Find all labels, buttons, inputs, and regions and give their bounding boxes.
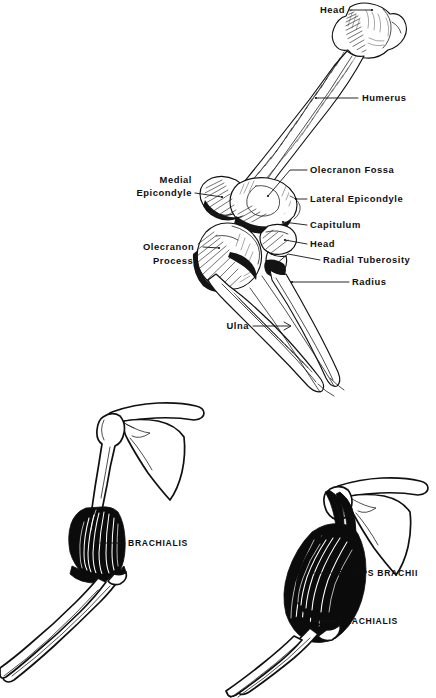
anatomy-illustration-svg: Head Humerus Medial Epicondyle Olecranon… [0,0,436,698]
anatomy-plate: Head Humerus Medial Epicondyle Olecranon… [0,0,436,698]
label-olecranon-process-line2: Process [153,255,193,266]
label-capitulum-text: Capitulum [310,219,361,230]
label-olecranon-fossa-text: Olecranon Fossa [310,164,395,175]
scapula-bone-left-figure [120,420,185,501]
label-radial-tuberosity-text: Radial Tuberosity [323,254,411,265]
forearm-bones-right-figure [226,624,340,698]
label-head-humerus-text: Head [320,4,345,15]
label-medial-epicondyle-line2: Epicondyle [136,187,192,198]
forearm-bones-left-figure [0,572,126,682]
label-radius: Radius [291,276,387,287]
label-humerus-text: Humerus [362,92,407,103]
label-brachialis-right-text: BRACHIALIS [338,616,398,626]
label-brachialis-left-text: BRACHIALIS [128,538,188,548]
label-lateral-epicondyle: Lateral Epicondyle [295,193,403,204]
label-radial-tuberosity: Radial Tuberosity [275,254,411,265]
brachialis-muscle-left-figure [69,507,126,583]
lower-right-biceps-panel: BICEPS BRACHII BRACHIALIS [226,478,428,698]
humerus-bone-left-figure [92,414,125,510]
label-lateral-epicondyle-text: Lateral Epicondyle [310,193,403,204]
lower-left-brachialis-panel: BRACHIALIS [0,403,204,682]
upper-skeleton-panel: Head Humerus Medial Epicondyle Olecranon… [136,3,410,396]
label-ulna-text: Ulna [226,320,249,331]
label-medial-epicondyle-line1: Medial [160,174,192,185]
olecranon-process-bone [193,223,262,292]
label-capitulum: Capitulum [282,219,361,230]
label-olecranon-process-line1: Olecranon [143,241,194,252]
label-biceps-brachii-text: BICEPS BRACHII [338,568,418,578]
radius-head-bone [260,224,296,277]
label-head-radius-text: Head [310,238,335,249]
label-radius-text: Radius [352,276,387,287]
